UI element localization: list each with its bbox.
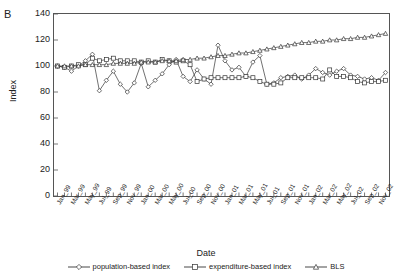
- square-marker-icon: [237, 76, 241, 80]
- square-marker-icon: [195, 80, 199, 84]
- diamond-marker-icon: [97, 89, 101, 93]
- diamond-marker-icon: [76, 264, 81, 269]
- diamond-marker-icon: [355, 74, 359, 78]
- panel-label: B: [4, 8, 11, 20]
- square-marker-icon: [321, 77, 325, 81]
- square-marker-icon: [356, 80, 360, 84]
- square-marker-icon: [90, 56, 94, 60]
- diamond-marker-icon: [216, 43, 220, 47]
- square-marker-icon: [216, 76, 220, 80]
- x-axis-title: Date: [0, 248, 412, 258]
- chart-figure: B Index 020406080100120140 Jan_99Mar_99M…: [0, 0, 412, 277]
- legend-label: expenditure-based index: [209, 262, 291, 272]
- square-marker-icon: [314, 76, 318, 80]
- y-axis-tick: 140: [24, 8, 50, 18]
- y-axis-tick: 20: [24, 164, 50, 174]
- square-marker-icon: [265, 82, 269, 86]
- x-axis-tick-labels: Jan_99Mar_99May_99Jul_99Sep_99Nov_99Jan_…: [53, 202, 393, 248]
- y-axis-tick: 100: [24, 60, 50, 70]
- square-marker-icon: [202, 77, 206, 81]
- square-marker-icon: [111, 56, 115, 60]
- diamond-marker-icon: [369, 76, 373, 80]
- legend-label: BLS: [330, 262, 344, 272]
- chart-legend: population-based indexexpenditure-based …: [0, 262, 412, 272]
- y-axis-title: Index: [8, 56, 18, 126]
- square-marker-icon: [342, 74, 346, 78]
- square-marker-icon: [193, 264, 198, 269]
- y-axis-tick-labels: 020406080100120140: [20, 0, 50, 277]
- square-marker-icon: [279, 81, 283, 85]
- y-axis-tick: 40: [24, 138, 50, 148]
- diamond-marker-icon: [320, 70, 324, 74]
- diamond-marker-icon: [334, 69, 338, 73]
- square-marker-icon: [244, 74, 248, 78]
- square-marker-icon: [223, 76, 227, 80]
- triangle-marker-icon: [383, 31, 387, 35]
- square-marker-icon: [184, 262, 206, 272]
- y-axis-tick: 80: [24, 86, 50, 96]
- square-marker-icon: [230, 76, 234, 80]
- square-marker-icon: [272, 82, 276, 86]
- square-marker-icon: [328, 68, 332, 72]
- legend-label: population-based index: [93, 262, 171, 272]
- legend-item[interactable]: expenditure-based index: [184, 262, 291, 272]
- series-triangle: [55, 31, 387, 68]
- triangle-marker-icon: [305, 262, 327, 272]
- square-marker-icon: [104, 58, 108, 62]
- square-marker-icon: [377, 80, 381, 84]
- legend-item[interactable]: population-based index: [68, 262, 171, 272]
- square-marker-icon: [335, 74, 339, 78]
- square-marker-icon: [384, 78, 388, 82]
- series-diamond: [55, 43, 387, 94]
- square-marker-icon: [286, 76, 290, 80]
- square-marker-icon: [251, 76, 255, 80]
- square-marker-icon: [209, 76, 213, 80]
- square-marker-icon: [307, 76, 311, 80]
- square-marker-icon: [363, 81, 367, 85]
- square-marker-icon: [370, 80, 374, 84]
- y-axis-tick: 0: [24, 190, 50, 200]
- chart-canvas: [54, 14, 389, 196]
- plot-area: [53, 13, 390, 197]
- diamond-marker-icon: [327, 73, 331, 77]
- diamond-marker-icon: [68, 262, 90, 272]
- diamond-marker-icon: [362, 77, 366, 81]
- legend-item[interactable]: BLS: [305, 262, 344, 272]
- y-axis-tick: 60: [24, 112, 50, 122]
- square-marker-icon: [349, 76, 353, 80]
- series-line: [57, 45, 385, 92]
- square-marker-icon: [293, 76, 297, 80]
- square-marker-icon: [188, 63, 192, 67]
- square-marker-icon: [300, 76, 304, 80]
- square-marker-icon: [258, 80, 262, 84]
- y-axis-tick: 120: [24, 34, 50, 44]
